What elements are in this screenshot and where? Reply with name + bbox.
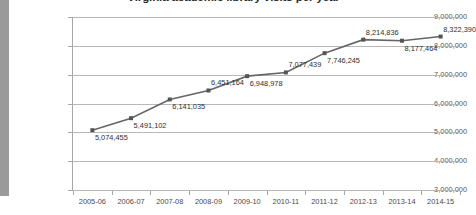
data-point-marker	[361, 38, 365, 42]
data-point-label: 5,074,455	[95, 133, 128, 142]
data-point-marker	[90, 128, 94, 132]
data-point-marker	[168, 97, 172, 101]
data-point-label: 5,491,102	[134, 121, 167, 130]
data-point-marker	[439, 35, 443, 39]
data-point-marker	[206, 88, 210, 92]
data-point-label: 8,177,464	[404, 44, 437, 53]
data-point-label: 7,746,245	[327, 56, 360, 65]
data-point-label: 8,214,836	[366, 28, 399, 37]
data-point-label: 7,077,439	[288, 60, 321, 69]
data-point-label: 6,451,164	[211, 78, 244, 87]
data-point-marker	[400, 39, 404, 43]
data-point-marker	[129, 116, 133, 120]
data-point-marker	[284, 70, 288, 74]
data-point-label: 8,322,390	[443, 25, 476, 34]
data-point-marker	[245, 74, 249, 78]
data-point-label: 6,948,978	[250, 79, 283, 88]
data-point-label: 6,141,035	[172, 102, 205, 111]
data-point-marker	[323, 51, 327, 55]
